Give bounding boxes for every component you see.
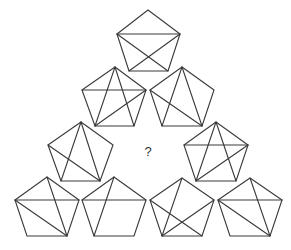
diagonal-left-br: [218, 200, 270, 236]
pentagon-row4-3: [150, 178, 214, 236]
pentagon-row4-4: [218, 178, 282, 236]
diagonal-top-bl: [196, 122, 216, 181]
diagonal-right-bl: [196, 145, 248, 181]
diagonal-top-bl: [162, 178, 182, 236]
diagonal-top-br: [81, 122, 100, 181]
diagonal-left-br: [15, 200, 67, 236]
pentagon-row3-left: [48, 122, 113, 181]
diagonal-top-br: [216, 122, 236, 181]
missing-pentagon-question-mark: ?: [144, 144, 151, 159]
diagonal-top-br: [182, 67, 202, 126]
diagonal-right-bl: [95, 90, 146, 126]
diagonal-left-br: [48, 145, 100, 181]
pentagon-row3-right: [184, 122, 248, 181]
diagonal-left-br: [150, 200, 202, 236]
diagonal-top-br: [250, 178, 270, 236]
diagonal-top-bl: [61, 122, 81, 181]
diagonal-top-bl: [94, 177, 114, 236]
diagonal-left-br: [117, 34, 168, 71]
diagonal-top-br: [47, 177, 67, 236]
diagonal-top-bl: [95, 67, 115, 126]
diagonal-right-bl: [129, 34, 180, 71]
pentagon-row2-right: [150, 67, 214, 126]
diagonal-right-bl: [162, 200, 214, 236]
diagonal-top-br: [115, 67, 134, 126]
pentagon-puzzle-diagram: [0, 0, 291, 250]
diagonal-top-bl: [162, 67, 182, 126]
pentagon-row2-left: [82, 67, 146, 126]
pentagon-row4-1: [15, 177, 79, 236]
pentagon-row1-center: [117, 10, 180, 71]
pentagon-row4-2: [82, 177, 146, 236]
diagonal-left-br: [150, 90, 202, 126]
pentagon-outline: [82, 177, 146, 236]
